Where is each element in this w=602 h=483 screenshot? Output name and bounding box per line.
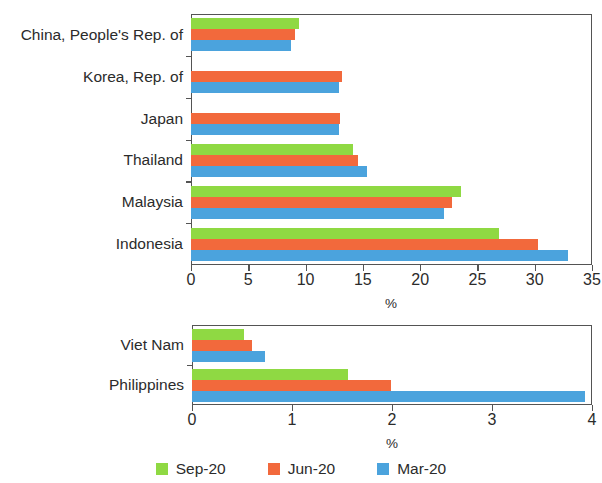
legend-swatch-icon	[268, 463, 280, 475]
legend-item: Sep-20	[156, 461, 226, 477]
y-axis-tick	[187, 365, 192, 366]
bar-mar-20	[191, 250, 568, 261]
legend-label: Jun-20	[288, 461, 335, 477]
bar-mar-20	[192, 391, 585, 402]
bar-jun-20	[191, 155, 358, 166]
lower-category-axis: Viet NamPhilippines	[4, 325, 184, 405]
category-label: China, People's Rep. of	[21, 27, 183, 43]
bar-mar-20	[191, 166, 367, 177]
x-axis-tick-label: 15	[354, 272, 372, 288]
lower-bar-chart-panel: Viet NamPhilippines 01234 %	[192, 325, 592, 405]
bar-sep-20	[191, 186, 461, 197]
x-axis-tick-label: 20	[411, 272, 429, 288]
x-axis-tick-label: 5	[244, 272, 253, 288]
category-label: Viet Nam	[121, 337, 184, 353]
lower-x-axis-title: %	[386, 437, 398, 451]
bar-mar-20	[191, 82, 339, 93]
bar-jun-20	[192, 340, 252, 351]
upper-x-axis-title: %	[385, 297, 397, 311]
legend-swatch-icon	[156, 463, 168, 475]
bar-jun-20	[191, 71, 342, 82]
legend-swatch-icon	[377, 463, 389, 475]
bar-jun-20	[191, 113, 340, 124]
upper-bar-chart-panel: China, People's Rep. ofKorea, Rep. ofJap…	[191, 14, 592, 265]
bar-mar-20	[191, 208, 444, 219]
bar-sep-20	[191, 18, 299, 29]
category-label: Malaysia	[122, 195, 183, 211]
bar-jun-20	[191, 197, 452, 208]
x-axis-tick-label: 3	[488, 412, 497, 428]
y-axis-tick	[186, 140, 191, 141]
x-axis-tick-label: 0	[188, 412, 197, 428]
chart-figure: China, People's Rep. ofKorea, Rep. ofJap…	[0, 0, 602, 483]
bar-sep-20	[192, 369, 348, 380]
legend-item: Jun-20	[268, 461, 335, 477]
bar-mar-20	[191, 40, 291, 51]
x-axis-tick-label: 10	[297, 272, 315, 288]
x-axis-tick-label: 0	[187, 272, 196, 288]
x-axis-tick-label: 25	[469, 272, 487, 288]
bar-sep-20	[191, 228, 499, 239]
bar-mar-20	[191, 124, 339, 135]
legend-label: Mar-20	[397, 461, 446, 477]
legend-label: Sep-20	[176, 461, 226, 477]
y-axis-tick	[186, 223, 191, 224]
category-label: Philippines	[109, 377, 184, 393]
category-label: Japan	[141, 111, 183, 127]
bar-jun-20	[192, 380, 391, 391]
bar-jun-20	[191, 29, 295, 40]
category-label: Korea, Rep. of	[83, 69, 183, 85]
chart-legend: Sep-20Jun-20Mar-20	[0, 461, 602, 477]
y-axis-tick	[186, 181, 191, 182]
y-axis-tick	[186, 56, 191, 57]
x-axis-tick-label: 2	[388, 412, 397, 428]
category-label: Thailand	[124, 153, 183, 169]
y-axis-tick	[186, 98, 191, 99]
bar-sep-20	[192, 329, 244, 340]
bar-mar-20	[192, 351, 265, 362]
upper-category-axis: China, People's Rep. ofKorea, Rep. ofJap…	[3, 14, 183, 265]
legend-item: Mar-20	[377, 461, 446, 477]
bar-sep-20	[191, 144, 353, 155]
category-label: Indonesia	[116, 236, 183, 252]
x-axis-tick-label: 4	[588, 412, 597, 428]
x-axis-tick-label: 35	[583, 272, 601, 288]
x-axis-tick-label: 1	[288, 412, 297, 428]
x-axis-tick-label: 30	[526, 272, 544, 288]
bar-jun-20	[191, 239, 538, 250]
